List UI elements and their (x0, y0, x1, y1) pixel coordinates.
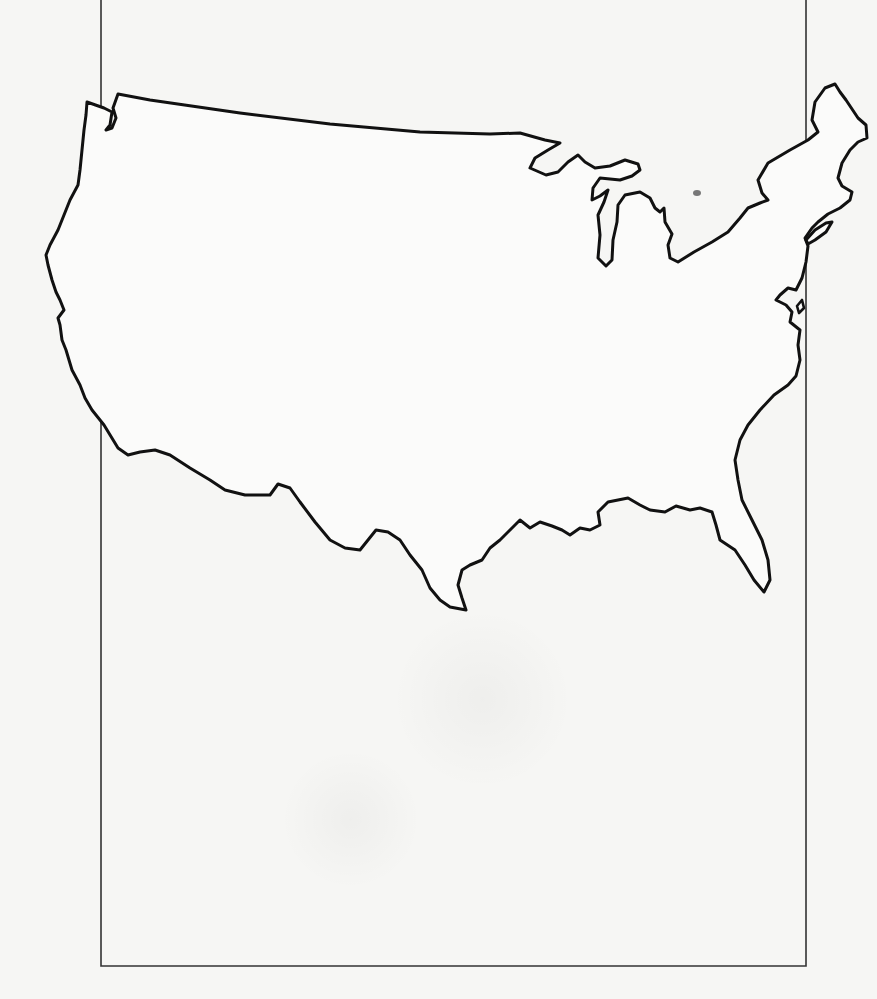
ink-spot (693, 190, 701, 196)
chesapeake-island-outline (797, 300, 804, 313)
us-mainland-outline (46, 84, 867, 610)
us-outline-map (0, 0, 877, 999)
